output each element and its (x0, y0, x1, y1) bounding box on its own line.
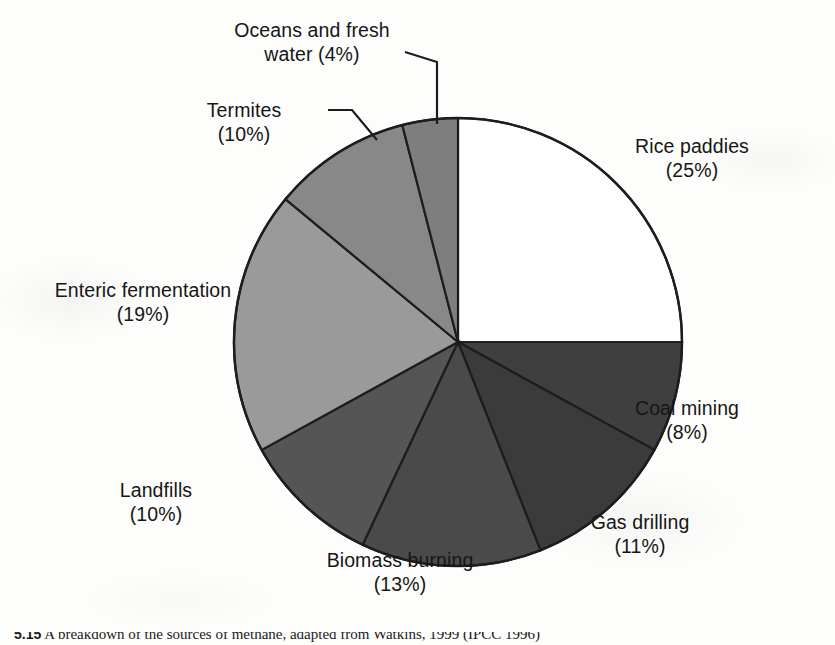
methane-sources-pie-chart: Oceans and fresh water (4%) Termites (10… (0, 0, 835, 645)
figure-caption-number: 5.15 (14, 632, 41, 642)
pie-slices (234, 118, 682, 566)
figure-caption-text: A breakdown of the sources of methane, a… (44, 632, 540, 642)
slice-label-enteric-fermentation: Enteric fermentation (19%) (10, 278, 276, 326)
slice-label-biomass-burning: Biomass burning (13%) (280, 548, 520, 596)
slice-label-landfills: Landfills (10%) (72, 478, 240, 526)
slice-label-coal-mining: Coal mining (8%) (592, 396, 782, 444)
figure-caption: 5.15 A breakdown of the sources of metha… (14, 632, 540, 643)
figure-caption-strip: 5.15 A breakdown of the sources of metha… (0, 632, 835, 645)
slice-label-termites: Termites (10%) (168, 98, 320, 146)
slice-label-gas-drilling: Gas drilling (11%) (540, 510, 740, 558)
slice-label-oceans-and-fresh-water: Oceans and fresh water (4%) (212, 18, 412, 66)
slice-label-rice-paddies: Rice paddies (25%) (592, 134, 792, 182)
